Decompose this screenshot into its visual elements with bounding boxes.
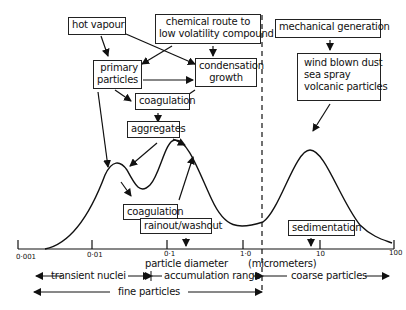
- mechanical-generation-box: mechanical generation: [275, 19, 381, 38]
- chemical-route-line1: chemical route to: [159, 16, 257, 28]
- tick-0.1: 0·1: [164, 250, 175, 258]
- sources-line1: wind blown dust: [304, 57, 377, 69]
- sources-line2: sea spray: [304, 69, 377, 81]
- rainout-washout-box: rainout/washout: [140, 218, 212, 234]
- chemical-route-line2: low volatility compound: [159, 28, 257, 40]
- primary-particles-line1: primary: [97, 62, 138, 74]
- range-accumulation: accumulation range: [164, 270, 260, 281]
- sedimentation-box: sedimentation: [288, 220, 355, 236]
- hot-vapour-box: hot vapour: [68, 17, 126, 35]
- chemical-route-box: chemical route to low volatility compoun…: [155, 14, 261, 44]
- tick-0.01: 0·01: [87, 251, 103, 259]
- primary-particles-box: primary particles: [93, 60, 142, 89]
- tick-1.0: 1·0: [240, 250, 251, 258]
- axis-label-particle-diameter: particle diameter: [145, 258, 228, 269]
- condensation-growth-box: condensation growth: [195, 58, 257, 87]
- tick-100: 100: [389, 249, 402, 257]
- x-axis: [18, 240, 394, 249]
- condensation-line2: growth: [199, 72, 253, 84]
- range-coarse-particles: coarse particles: [291, 270, 367, 281]
- particle-sources-box: wind blown dust sea spray volcanic parti…: [297, 53, 381, 101]
- tick-0.001: 0·001: [16, 253, 36, 261]
- range-transient-nuclei: transient nuclei: [51, 270, 126, 281]
- aggregates-box: aggregates: [127, 121, 180, 138]
- coagulation-top-box: coagulation: [135, 93, 190, 110]
- condensation-line1: condensation: [199, 60, 253, 72]
- primary-particles-line2: particles: [97, 74, 138, 86]
- range-fine-particles: fine particles: [118, 286, 180, 297]
- axis-label-units: (micrometers): [248, 258, 317, 269]
- sources-line3: volcanic particles: [304, 81, 377, 93]
- tick-10: 10: [316, 250, 325, 258]
